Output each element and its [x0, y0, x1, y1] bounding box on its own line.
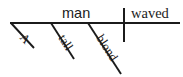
- sentence-diagram-svg: man waved A tall blond: [0, 0, 183, 77]
- subject-word: man: [62, 5, 90, 21]
- modifier-word-blond: blond: [93, 32, 121, 64]
- predicate-word: waved: [131, 5, 170, 21]
- sentence-diagram-canvas: man waved A tall blond: [0, 0, 183, 77]
